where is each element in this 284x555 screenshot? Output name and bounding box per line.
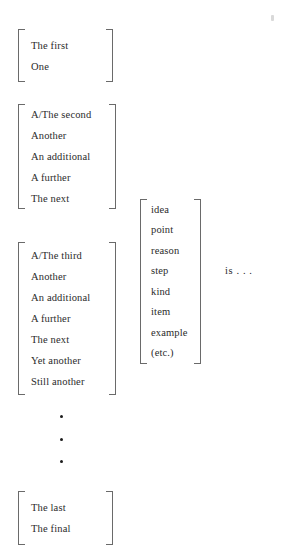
ellipsis-dot-icon: [60, 415, 63, 418]
list-item: A/The third: [31, 245, 103, 266]
list-item: An additional: [31, 287, 103, 308]
bracket-group-nouns-items: idea point reason step kind item example…: [151, 199, 192, 364]
list-item: Another: [31, 125, 103, 146]
list-item: Still another: [31, 371, 103, 392]
list-item: kind: [151, 282, 192, 303]
predicate-text: is . . .: [225, 264, 253, 278]
list-item: The final: [31, 518, 100, 539]
right-bracket-icon: [109, 242, 116, 395]
list-item: example: [151, 323, 192, 344]
right-bracket-icon: [194, 199, 201, 364]
right-bracket-icon: [109, 104, 116, 209]
list-item: reason: [151, 241, 192, 262]
bracket-group-nouns: idea point reason step kind item example…: [140, 199, 201, 364]
bracket-group-last: The last The final: [18, 491, 113, 545]
bracket-group-third-items: A/The third Another An additional A furt…: [31, 242, 103, 395]
ellipsis-dot-icon: [60, 438, 63, 441]
left-bracket-icon: [18, 29, 25, 82]
list-item: step: [151, 261, 192, 282]
bracket-group-first: The first One: [18, 29, 113, 82]
left-bracket-icon: [18, 242, 25, 395]
ellipsis-dot-icon: [60, 460, 63, 463]
list-item: One: [31, 56, 100, 77]
list-item: point: [151, 220, 192, 241]
list-item: An additional: [31, 146, 103, 167]
bracket-group-second: A/The second Another An additional A fur…: [18, 104, 116, 209]
list-item: Another: [31, 266, 103, 287]
list-item: The next: [31, 188, 103, 209]
list-item: item: [151, 302, 192, 323]
list-item: A further: [31, 167, 103, 188]
left-bracket-icon: [18, 491, 25, 545]
vertical-ellipsis: [60, 412, 70, 470]
right-bracket-icon: [106, 491, 113, 545]
enumeration-brackets-figure: The first One A/The second Another An ad…: [0, 0, 284, 555]
list-item: The last: [31, 497, 100, 518]
bracket-group-second-items: A/The second Another An additional A fur…: [31, 104, 103, 209]
list-item: The first: [31, 35, 100, 56]
left-bracket-icon: [18, 104, 25, 209]
list-item: idea: [151, 200, 192, 221]
scan-artifact-speck: [271, 15, 274, 21]
list-item: A/The second: [31, 104, 103, 125]
list-item: The next: [31, 329, 103, 350]
bracket-group-first-items: The first One: [31, 29, 100, 82]
list-item: Yet another: [31, 350, 103, 371]
bracket-group-third: A/The third Another An additional A furt…: [18, 242, 116, 395]
list-item: (etc.): [151, 343, 192, 364]
list-item: A further: [31, 308, 103, 329]
left-bracket-icon: [140, 199, 147, 364]
right-bracket-icon: [106, 29, 113, 82]
bracket-group-last-items: The last The final: [31, 491, 100, 545]
